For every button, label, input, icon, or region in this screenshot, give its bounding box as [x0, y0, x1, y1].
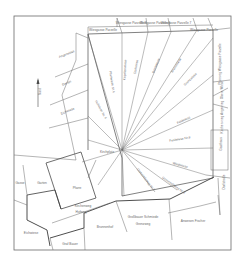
pfarre-building: [46, 152, 96, 209]
parcel-label: Feldwiese: [176, 115, 191, 125]
parcel-label: Großbauer Schmiede: [128, 215, 159, 219]
parcel-label: Pfarrweg Wiesgasse Parzelle: [218, 43, 222, 85]
main-field-boundary: [88, 30, 213, 196]
parcel-label: Grenzweg: [136, 222, 151, 226]
parcel-label: Grenzwiese: [183, 72, 198, 87]
map-frame: [14, 16, 231, 250]
parcel-label: Gasse: [15, 181, 24, 185]
parcel-label: Eichwiese: [60, 106, 75, 115]
parcel-label: Angerwiese: [58, 49, 75, 59]
parcel-label: Gemeindeweg Nr.2: [136, 167, 156, 191]
road-boundary-2: [27, 190, 61, 209]
parcel-label: Wiesgasse Parzelle: [89, 28, 117, 32]
parcel-label: Garten: [61, 79, 72, 86]
parcel-label: Hofweg: [76, 210, 87, 214]
parcel-label: Feldwiese Nr.8: [169, 135, 191, 143]
parcel-label: Kirchen-weg Angerweg: [220, 100, 224, 133]
parcel-label: Bachwiese: [151, 58, 161, 74]
parcel-label: Eichwiese: [24, 231, 39, 235]
parcel-label: Brunnenhof: [97, 225, 114, 229]
parcel-label: Gasthaus: [219, 137, 223, 151]
parcel-label: Dorfwiese: [133, 59, 139, 74]
left-parcels: [14, 33, 88, 160]
parcel-label: Wiesgasse Parzelle 7: [161, 21, 192, 25]
parcel-label: Kirchenweg: [75, 204, 92, 208]
parcel-label: Brunnwiese: [170, 57, 183, 73]
road-boundary: [27, 195, 50, 246]
parcel-label: Pfarrwiese Nr.4: [108, 71, 115, 93]
parcel-label: Pfarre: [73, 186, 82, 190]
parcel-label: Wiesgasse Parzelle: [190, 28, 218, 32]
parcel-label: Graf Bauer: [62, 242, 79, 246]
bottom-parcels: [14, 160, 220, 250]
parcel-labels: Wiesgasse ParzelleWiesgasse Parzelle 8Wi…: [15, 21, 226, 246]
parcel-label: Kapellenwiese: [122, 59, 127, 80]
cadastral-map: Wiesgasse ParzelleWiesgasse Parzelle 8Wi…: [0, 0, 245, 266]
parcel-label: Anwesen Fischer: [181, 219, 206, 223]
parcel-label: Garten: [37, 181, 47, 185]
parcel-label: Dorfstraße: [222, 174, 226, 189]
parcel-label: Kirchplatz: [100, 150, 114, 154]
parcel-label: Weidwiese: [172, 161, 188, 169]
parcel-label: Hofwiese Nr. 6: [94, 99, 108, 119]
parcel-label: Obere Wiese: [220, 80, 224, 99]
north-arrow-label: Nord: [38, 88, 42, 95]
parcel-label: Gemeindeweg Nr.9: [161, 176, 186, 195]
